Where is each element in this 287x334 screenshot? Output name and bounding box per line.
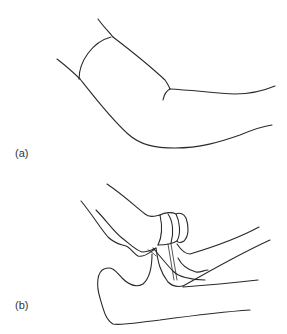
panel-a-arm-outline — [57, 19, 275, 148]
panel-label-b: (b) — [15, 299, 28, 311]
figure: (a) (b) — [0, 0, 287, 334]
elbow-illustration — [0, 0, 287, 334]
panel-label-a: (a) — [15, 147, 28, 159]
panel-b-elbow-bones — [81, 184, 270, 325]
